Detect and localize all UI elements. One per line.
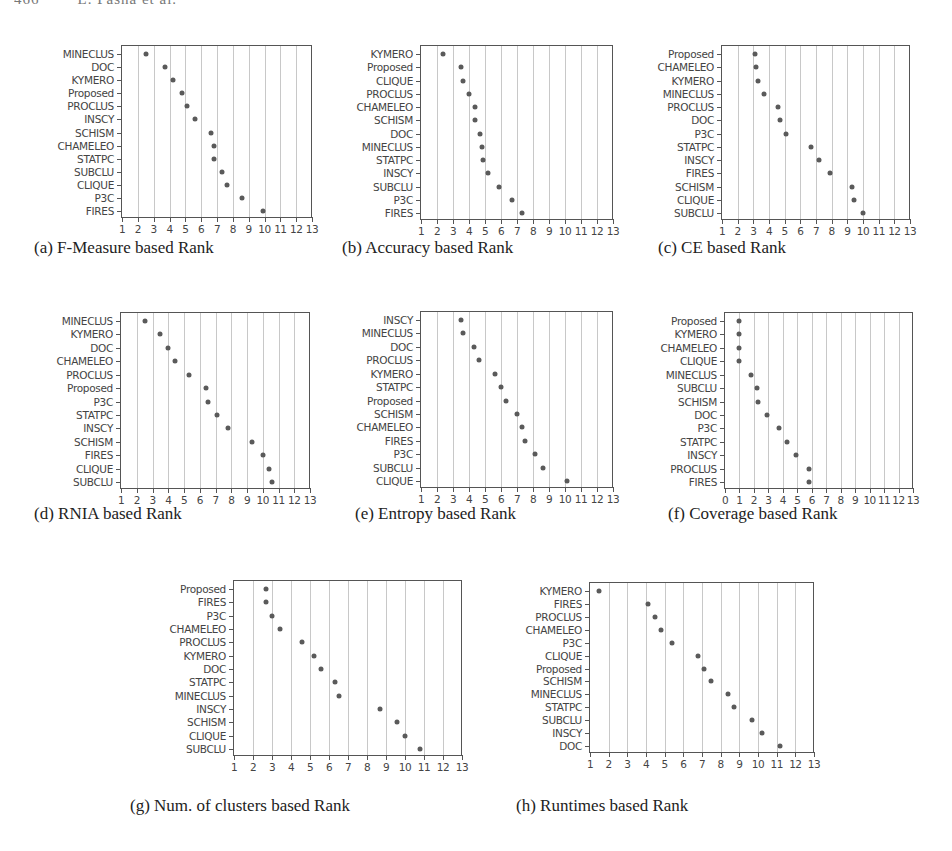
x-tick-label: 12 bbox=[789, 758, 801, 770]
x-tick bbox=[138, 217, 139, 222]
y-tick bbox=[717, 187, 722, 188]
x-tick bbox=[795, 752, 796, 757]
x-tick-label: 5 bbox=[662, 758, 668, 770]
y-tick bbox=[416, 387, 421, 388]
y-tick bbox=[229, 602, 234, 603]
y-tick bbox=[117, 172, 122, 173]
y-tick bbox=[720, 402, 725, 403]
x-tick bbox=[739, 488, 740, 493]
data-point bbox=[784, 131, 789, 136]
x-tick bbox=[816, 219, 817, 224]
data-point bbox=[756, 78, 761, 83]
gridline bbox=[469, 312, 470, 487]
x-tick bbox=[296, 217, 297, 222]
data-point bbox=[226, 426, 231, 431]
data-point bbox=[403, 733, 408, 738]
x-tick bbox=[722, 219, 723, 224]
y-category-label: DOC bbox=[559, 741, 582, 752]
x-tick-label: 2 bbox=[250, 761, 256, 773]
y-category-label: SUBCLU bbox=[373, 462, 413, 473]
gridline bbox=[185, 46, 186, 217]
y-category-label: PROCLUS bbox=[66, 369, 113, 380]
data-point bbox=[776, 105, 781, 110]
x-tick bbox=[899, 488, 900, 493]
x-tick bbox=[200, 488, 201, 493]
x-tick bbox=[863, 219, 864, 224]
y-tick bbox=[585, 604, 590, 605]
y-category-label: CHAMELEO bbox=[170, 624, 226, 635]
x-tick-label: 4 bbox=[166, 223, 172, 235]
plot-f: 012345678910111213ProposedKYMEROCHAMELEO… bbox=[724, 312, 913, 489]
x-tick-label: 3 bbox=[269, 761, 275, 773]
data-point bbox=[564, 479, 569, 484]
x-tick bbox=[310, 755, 311, 760]
gridline bbox=[216, 313, 217, 488]
caption-g: (g) Num. of clusters based Rank bbox=[130, 796, 350, 816]
x-tick bbox=[310, 488, 311, 493]
y-category-label: SUBCLU bbox=[186, 744, 226, 755]
data-point bbox=[166, 345, 171, 350]
gridline bbox=[769, 46, 770, 219]
y-category-label: STATPC bbox=[76, 409, 113, 420]
y-category-label: P3C bbox=[394, 194, 413, 205]
y-category-label: DOC bbox=[91, 62, 114, 73]
x-tick bbox=[247, 488, 248, 493]
data-point bbox=[481, 158, 486, 163]
gridline bbox=[443, 581, 444, 755]
y-tick bbox=[117, 198, 122, 199]
x-tick-label: 11 bbox=[418, 761, 430, 773]
gridline bbox=[201, 46, 202, 217]
gridline bbox=[581, 312, 582, 487]
x-tick bbox=[769, 219, 770, 224]
x-tick-label: 12 bbox=[288, 494, 300, 506]
y-tick bbox=[416, 213, 421, 214]
x-tick-label: 1 bbox=[418, 225, 424, 237]
data-point bbox=[186, 372, 191, 377]
y-category-label: CHAMELEO bbox=[57, 356, 113, 367]
data-point bbox=[540, 465, 545, 470]
y-category-label: SUBCLU bbox=[674, 208, 714, 219]
x-tick-label: 10 bbox=[559, 225, 571, 237]
y-category-label: FIRES bbox=[385, 435, 413, 446]
x-tick bbox=[754, 488, 755, 493]
x-tick-label: 10 bbox=[559, 493, 571, 505]
x-tick bbox=[501, 219, 502, 224]
y-category-label: SCHISM bbox=[543, 676, 582, 687]
y-tick bbox=[416, 414, 421, 415]
gridline bbox=[137, 313, 138, 488]
gridline bbox=[168, 313, 169, 488]
y-tick bbox=[720, 334, 725, 335]
y-tick bbox=[116, 321, 121, 322]
data-point bbox=[180, 91, 185, 96]
data-point bbox=[311, 653, 316, 658]
x-tick-label: 4 bbox=[288, 761, 294, 773]
x-tick bbox=[153, 488, 154, 493]
gridline bbox=[627, 583, 628, 752]
data-point bbox=[737, 332, 742, 337]
data-point bbox=[319, 667, 324, 672]
y-category-label: SUBCLU bbox=[73, 477, 113, 488]
y-category-label: CLIQUE bbox=[376, 75, 413, 86]
x-tick bbox=[581, 219, 582, 224]
y-tick bbox=[116, 442, 121, 443]
gridline bbox=[899, 313, 900, 488]
data-point bbox=[170, 78, 175, 83]
gridline bbox=[738, 46, 739, 219]
y-category-label: PROCLUS bbox=[179, 637, 226, 648]
x-tick-label: 6 bbox=[198, 223, 204, 235]
data-point bbox=[264, 587, 269, 592]
gridline bbox=[855, 313, 856, 488]
x-tick bbox=[168, 488, 169, 493]
y-category-label: STATPC bbox=[376, 382, 413, 393]
gridline bbox=[280, 46, 281, 217]
data-point bbox=[211, 143, 216, 148]
data-point bbox=[492, 371, 497, 376]
x-tick-label: 9 bbox=[246, 223, 252, 235]
gridline bbox=[797, 313, 798, 488]
y-tick bbox=[229, 696, 234, 697]
gridline bbox=[847, 46, 848, 219]
y-category-label: CLIQUE bbox=[677, 194, 714, 205]
y-category-label: KYMERO bbox=[72, 75, 114, 86]
data-point bbox=[809, 144, 814, 149]
gridline bbox=[597, 312, 598, 487]
